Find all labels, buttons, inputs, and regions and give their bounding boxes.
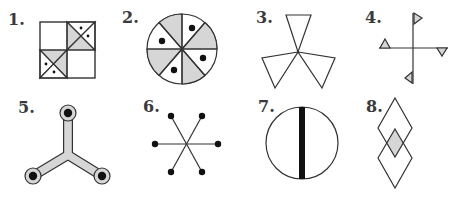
figure-7: 7. [258, 97, 338, 179]
figure-5: 5. [18, 98, 110, 184]
figure-4-label: 4. [365, 8, 382, 27]
figure-4: 4. [365, 8, 448, 84]
figure-1: 1. [8, 10, 95, 78]
figure-3-label: 3. [256, 8, 273, 27]
figure-8: 8. [366, 97, 412, 188]
figure-3: 3. [256, 8, 335, 88]
figure-2: 2. [122, 8, 217, 84]
figure-6-label: 6. [143, 97, 160, 116]
flagged-cross-icon [379, 13, 448, 84]
figure-6: 6. [143, 97, 221, 175]
trefoil-triangles-icon [262, 15, 335, 88]
quadrant-square-icon [40, 22, 95, 78]
overlapping-diamonds-icon [378, 98, 412, 188]
figure-8-label: 8. [366, 97, 383, 116]
barred-circle-icon [266, 107, 338, 179]
asterisk-dots-icon [152, 113, 221, 175]
figure-2-label: 2. [122, 8, 139, 27]
y-connector-icon [25, 105, 110, 184]
figure-7-label: 7. [258, 97, 275, 116]
figure-5-label: 5. [18, 98, 35, 117]
figures-canvas: 1. 2. [0, 0, 465, 203]
figure-1-label: 1. [8, 10, 25, 29]
sector-circle-icon [147, 14, 217, 84]
